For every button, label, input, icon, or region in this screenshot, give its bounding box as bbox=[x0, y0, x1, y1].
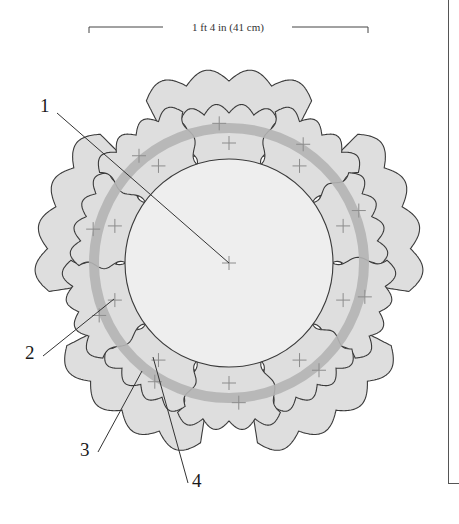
flower-shapes bbox=[35, 70, 423, 450]
callout-label-4: 4 bbox=[192, 470, 202, 491]
quilt-block-diagram: 1 ft 4 in (41 cm) 1 2 3 4 bbox=[0, 0, 459, 524]
callout-label-2: 2 bbox=[25, 342, 35, 363]
dimension-label: 1 ft 4 in (41 cm) bbox=[192, 21, 264, 34]
callout-label-1: 1 bbox=[40, 95, 50, 116]
callout-label-3: 3 bbox=[80, 439, 90, 460]
